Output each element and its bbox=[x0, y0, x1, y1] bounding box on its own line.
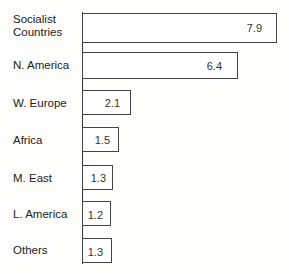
category-label: Socialist Countries bbox=[13, 13, 62, 39]
bar-value: 1.3 bbox=[88, 246, 103, 258]
category-label: Africa bbox=[13, 134, 42, 147]
category-label: M. East bbox=[13, 172, 52, 185]
bar: 1.3 bbox=[82, 238, 112, 263]
bar: 7.9 bbox=[82, 13, 277, 43]
bar: 1.5 bbox=[82, 127, 119, 152]
bar-value: 1.5 bbox=[95, 134, 110, 146]
bar-value: 7.9 bbox=[247, 22, 262, 34]
category-label: Others bbox=[13, 244, 48, 257]
bar: 2.1 bbox=[82, 90, 131, 115]
category-label: L. America bbox=[13, 208, 67, 221]
category-label: N. America bbox=[13, 59, 69, 72]
bar: 1.3 bbox=[82, 165, 113, 190]
bar: 1.2 bbox=[82, 201, 111, 226]
category-label: W. Europe bbox=[13, 97, 67, 110]
bar-value: 1.3 bbox=[91, 172, 106, 184]
bar-value: 1.2 bbox=[88, 209, 103, 221]
bar: 6.4 bbox=[82, 52, 238, 79]
bar-value: 6.4 bbox=[207, 60, 222, 72]
bar-value: 2.1 bbox=[105, 97, 120, 109]
